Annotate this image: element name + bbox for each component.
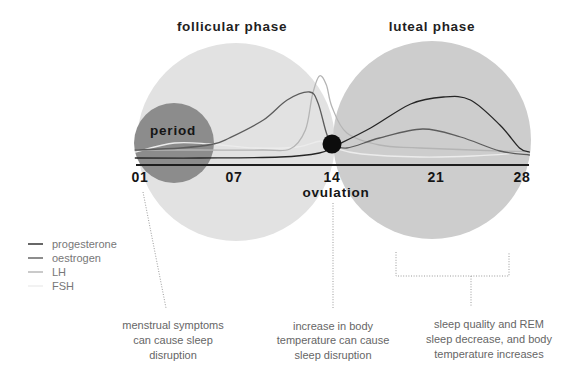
legend-label-fsh: FSH [52, 280, 74, 292]
tick-label-day-28: 28 [514, 169, 531, 185]
note-line: sleep quality and REM [434, 318, 544, 330]
ovulation-dot [323, 135, 342, 154]
legend-label-lh: LH [52, 266, 66, 278]
tick-label-day-01: 01 [132, 169, 149, 185]
note-line: sleep disruption [294, 349, 371, 361]
legend-item-fsh: FSH [28, 280, 74, 292]
legend-item-progesterone: progesterone [28, 238, 117, 250]
note-line: temperature can cause [277, 334, 390, 346]
note-line: increase in body [293, 320, 374, 332]
luteal-phase-title: luteal phase [389, 19, 475, 34]
legend: progesterone oestrogen LH FSH [28, 238, 117, 292]
note-line: can cause sleep [133, 334, 213, 346]
note-line: disruption [149, 349, 197, 361]
legend-label-oestrogen: oestrogen [52, 252, 101, 264]
legend-label-progesterone: progesterone [52, 238, 117, 250]
note-body-temperature: increase in body temperature can cause s… [277, 320, 390, 361]
ovulation-label: ovulation [302, 185, 369, 200]
hormone-cycle-chart: follicular phase luteal phase period 01 … [0, 0, 584, 380]
tick-label-day-07: 07 [226, 169, 243, 185]
tick-label-day-14: 14 [324, 169, 341, 185]
note-menstrual-symptoms: menstrual symptoms can cause sleep disru… [122, 319, 224, 361]
legend-item-oestrogen: oestrogen [28, 252, 101, 264]
period-label: period [150, 123, 196, 138]
note-line: menstrual symptoms [122, 319, 224, 331]
period-leader-line [143, 192, 166, 308]
tick-label-day-21: 21 [428, 169, 445, 185]
note-line: temperature increases [434, 348, 544, 360]
follicular-phase-title: follicular phase [177, 19, 287, 34]
luteal-bracket [396, 252, 509, 276]
legend-item-lh: LH [28, 266, 66, 278]
note-sleep-quality: sleep quality and REM sleep decrease, an… [426, 318, 552, 360]
note-line: sleep decrease, and body [426, 333, 552, 345]
